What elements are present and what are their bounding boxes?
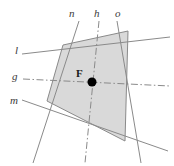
line-label-m: m <box>10 95 18 106</box>
center-point-dot <box>88 78 97 87</box>
line-label-h: h <box>94 8 100 19</box>
line-label-l: l <box>15 45 18 56</box>
line-label-n: n <box>69 8 75 19</box>
line-label-o: o <box>115 8 121 19</box>
figure-canvas <box>0 0 174 166</box>
geometry-figure: l g m n h o F <box>0 0 174 166</box>
center-point-label: F <box>76 68 83 79</box>
line-label-g: g <box>12 71 18 82</box>
shaded-quadrilateral <box>47 31 128 141</box>
